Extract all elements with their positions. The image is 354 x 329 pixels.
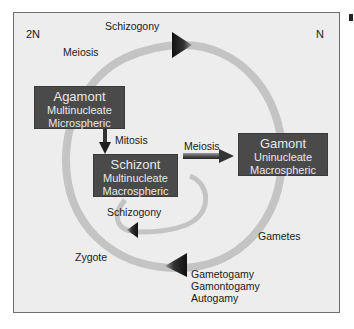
meiosis-left-label: Meiosis [63,46,99,58]
schizont-line1: Multinucleate [94,172,177,185]
gametes-label: Gametes [258,230,301,242]
gamont-line1: Uninucleate [239,151,327,164]
agamont-box: Agamont Multinucleate Microspheric [34,86,125,129]
schizogony-top-label: Schizogony [105,20,159,32]
schizont-box: Schizont Multinucleate Macrospheric [93,154,178,197]
schizont-title: Schizont [94,157,177,172]
autogamy-label: Autogamy [191,292,238,304]
zygote-label: Zygote [75,251,107,263]
mitosis-label: Mitosis [115,134,148,146]
arrowhead-top-icon [172,32,192,58]
agamont-line1: Multinucleate [35,104,124,117]
arrowhead-bottom-icon [165,253,187,277]
arrowhead-inner-icon [127,222,138,238]
meiosis-center-label: Meiosis [184,140,220,152]
agamont-title: Agamont [35,89,124,104]
schizogony-inner-label: Schizogony [107,206,161,218]
gamont-title: Gamont [239,136,327,151]
gamont-box: Gamont Uninucleate Macrospheric [238,133,328,176]
ploidy-n-label: N [316,28,324,40]
gamont-line2: Macrospheric [239,164,327,177]
mitosis-arrow-icon [99,127,111,154]
gametogamy-label: Gametogamy [191,268,254,280]
agamont-line2: Microspheric [35,117,124,130]
schizont-line2: Macrospheric [94,185,177,198]
gamontogamy-label: Gamontogamy [191,280,260,292]
ploidy-2n-label: 2N [26,28,40,40]
